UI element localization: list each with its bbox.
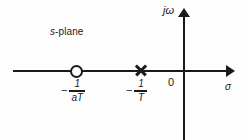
origin-label: 0 — [168, 76, 174, 88]
pole-location-label: − 1 T — [126, 79, 147, 103]
imaginary-axis-arrow-icon — [178, 8, 190, 17]
imaginary-axis-label: jω — [163, 4, 174, 16]
s-plane-label: s-plane — [50, 26, 84, 37]
s-plane-diagram: s-plane jω σ 0 − 1 aT − 1 T — [0, 0, 243, 140]
real-axis-label: σ — [225, 81, 231, 92]
pole-label-denominator: T — [136, 92, 146, 103]
pole-marker-icon — [134, 64, 147, 77]
zero-location-label: − 1 aT — [61, 79, 85, 103]
zero-label-denominator: aT — [69, 92, 85, 103]
zero-label-fraction: 1 aT — [69, 79, 85, 103]
pole-label-numerator: 1 — [136, 79, 146, 90]
real-axis-arrow-icon — [226, 65, 235, 77]
zero-marker-icon — [70, 65, 83, 78]
zero-label-minus-sign: − — [61, 84, 69, 97]
imaginary-axis-line — [183, 16, 185, 140]
pole-label-minus-sign: − — [126, 84, 134, 97]
zero-label-numerator: 1 — [72, 79, 82, 90]
pole-label-fraction: 1 T — [134, 79, 147, 103]
s-plane-label-text: s-plane — [50, 26, 84, 37]
real-axis-line — [13, 70, 229, 72]
